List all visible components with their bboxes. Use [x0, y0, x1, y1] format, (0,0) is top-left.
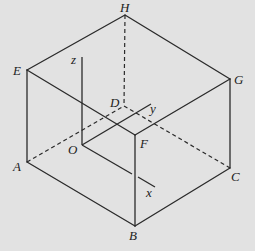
edge-AB: [27, 162, 135, 226]
label-y-axis: y: [148, 101, 156, 116]
label-B: B: [129, 228, 137, 243]
label-x-axis: x: [145, 185, 152, 200]
edge-HG: [125, 15, 230, 79]
label-F: F: [139, 136, 149, 151]
label-A: A: [12, 159, 21, 174]
label-O: O: [68, 142, 78, 157]
label-H: H: [119, 0, 130, 15]
cuboid-diagram: H E G D F A C B O z y x: [0, 0, 255, 251]
diagram-canvas: H E G D F A C B O z y x: [0, 0, 255, 251]
label-E: E: [12, 63, 21, 78]
label-C: C: [231, 169, 240, 184]
label-G: G: [234, 72, 244, 87]
x-axis-segment-1: [82, 145, 132, 174]
edge-HD: [124, 15, 125, 106]
label-z-axis: z: [70, 52, 76, 67]
label-D: D: [109, 95, 120, 110]
